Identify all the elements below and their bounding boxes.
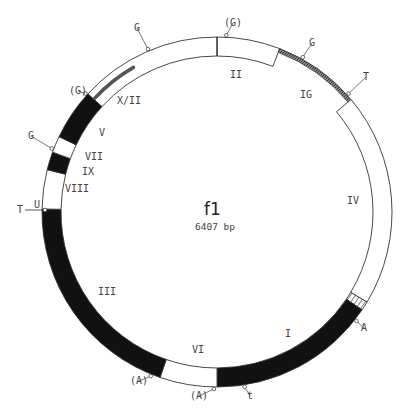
gene-label: VI [192, 344, 204, 355]
marker-label: G [28, 130, 34, 141]
site-marker: (G) [224, 17, 242, 37]
segment-x-ii [88, 37, 217, 107]
marker-leader-line [31, 136, 52, 149]
marker-label: G [134, 22, 140, 33]
site-marker: T [347, 71, 369, 95]
gene-label: X/II [117, 95, 141, 106]
site-marker: G [301, 37, 315, 59]
genome-size: 6407 bp [195, 221, 235, 232]
site-marker: (G) [69, 85, 87, 96]
marker-label: (G) [69, 85, 87, 96]
origin-dot-icon [43, 208, 47, 212]
marker-label: t [247, 390, 253, 401]
marker-dot-icon [301, 55, 305, 59]
marker-dot-icon [355, 319, 359, 323]
marker-label: G [309, 37, 315, 48]
marker-label: (A) [190, 390, 208, 401]
gene-label: VIII [65, 183, 89, 194]
gene-label: VII [85, 151, 103, 162]
marker-dot-icon [347, 92, 351, 96]
site-marker: (A) [190, 387, 216, 401]
marker-label: (G) [224, 17, 242, 28]
genome-map: (G)GTAt(A)(A)G(G)G IIIGIVIVIIIIVIIIIXVII… [0, 0, 410, 414]
genome-title: f1 [204, 199, 221, 219]
site-marker: G [28, 130, 54, 150]
segment-vi [160, 360, 217, 387]
marker-dot-icon [50, 147, 54, 151]
marker-label: A [361, 322, 367, 333]
gene-label: IX [82, 166, 94, 177]
segment-i [217, 299, 362, 387]
marker-label: (A) [130, 375, 148, 386]
marker-dot-icon [224, 33, 228, 37]
segment-v [59, 94, 102, 145]
gene-label: IG [300, 89, 312, 100]
site-marker: G [134, 22, 150, 51]
origin-t-label: T [17, 204, 23, 215]
gene-label: I [285, 328, 291, 339]
site-marker: A [355, 319, 367, 333]
segment-ii [217, 37, 280, 66]
segment-viii [42, 170, 66, 210]
segment-ig [278, 49, 351, 102]
site-marker: t [243, 385, 253, 401]
gene-label: IV [347, 195, 359, 206]
marker-dot-icon [212, 387, 216, 391]
gene-label: II [230, 69, 242, 80]
origin-u-label: U [34, 199, 40, 210]
marker-dot-icon [149, 374, 153, 378]
site-marker: (A) [130, 374, 152, 386]
segment-iv [337, 100, 392, 303]
gene-label: V [99, 127, 105, 138]
marker-dot-icon [146, 47, 150, 51]
marker-dot-icon [243, 385, 247, 389]
marker-label: T [363, 71, 369, 82]
gene-label: III [98, 286, 116, 297]
